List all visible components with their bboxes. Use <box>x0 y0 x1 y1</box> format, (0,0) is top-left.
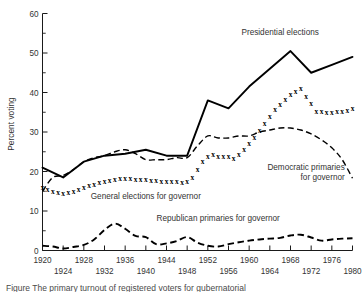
data-point-marker: x <box>320 107 324 116</box>
data-point-marker: x <box>113 175 117 184</box>
data-point-marker: x <box>196 165 200 174</box>
data-point-marker: x <box>325 108 329 117</box>
data-point-marker: x <box>170 177 174 186</box>
data-point-marker: x <box>46 185 50 194</box>
data-point-marker: x <box>159 177 163 186</box>
y-tick-label: 60 <box>29 10 39 19</box>
data-point-marker: x <box>185 177 189 186</box>
x-tick-label: 1972 <box>302 267 321 276</box>
data-point-marker: x <box>128 174 132 183</box>
x-tick-label: 1936 <box>116 256 135 265</box>
y-tick-label: 20 <box>29 168 39 177</box>
data-point-marker: x <box>175 177 179 186</box>
data-point-marker: x <box>97 178 101 187</box>
data-point-marker: x <box>149 176 153 185</box>
x-tick-label: 1948 <box>178 267 197 276</box>
data-point-marker: x <box>180 178 184 187</box>
data-point-marker: x <box>273 105 277 114</box>
y-tick-label: 40 <box>29 89 39 98</box>
x-tick-label: 1944 <box>157 256 176 265</box>
data-point-marker: x <box>227 152 231 161</box>
data-point-marker: x <box>304 92 308 101</box>
data-point-marker: x <box>258 126 262 135</box>
series-republican-primaries-for-governor <box>43 224 353 249</box>
data-point-marker: x <box>252 133 256 142</box>
y-axis-tick-labels: 0102030405060 <box>29 10 39 256</box>
label-presidential-elections: Presidential elections <box>241 28 318 37</box>
data-point-marker: x <box>263 119 267 128</box>
data-point-marker: x <box>103 177 107 186</box>
data-point-marker: x <box>221 152 225 161</box>
data-point-marker: x <box>247 139 251 148</box>
data-point-marker: x <box>77 185 81 194</box>
data-point-marker: x <box>92 180 96 189</box>
data-point-marker: x <box>289 90 293 99</box>
data-point-marker: x <box>232 154 236 163</box>
data-point-marker: x <box>82 183 86 192</box>
data-point-marker: x <box>268 112 272 121</box>
data-point-marker: x <box>201 157 205 166</box>
y-tick-label: 50 <box>29 49 39 58</box>
label-republican-primaries: Republican primaries for governor <box>157 214 281 223</box>
data-point-marker: x <box>154 176 158 185</box>
figure-caption-group: Figure The primary turnout of registered… <box>6 283 246 292</box>
series-annotations: Presidential electionsDemocratic primari… <box>91 28 345 223</box>
x-tick-label: 1968 <box>281 256 300 265</box>
line-chart: Percent voting 0102030405060 19201928193… <box>0 0 363 292</box>
y-tick-label: 30 <box>29 128 39 137</box>
data-point-marker: x <box>56 188 60 197</box>
x-tick-label: 1960 <box>240 256 259 265</box>
series-presidential-elections <box>43 51 353 177</box>
x-tick-label: 1952 <box>199 256 218 265</box>
data-point-marker: x <box>72 187 76 196</box>
data-point-marker: x <box>108 176 112 185</box>
data-point-marker: x <box>118 174 122 183</box>
data-point-marker: x <box>340 107 344 116</box>
y-tick-label: 10 <box>29 207 39 216</box>
x-tick-label: 1920 <box>33 256 52 265</box>
y-axis-title-group: Percent voting <box>6 97 16 151</box>
series-line <box>43 51 353 177</box>
data-point-marker: x <box>139 175 143 184</box>
data-point-marker: x <box>242 145 246 154</box>
x-tick-label: 1976 <box>323 256 342 265</box>
series-line <box>43 224 353 249</box>
data-point-marker: x <box>190 173 194 182</box>
data-point-marker: x <box>278 100 282 109</box>
y-tick-label: 0 <box>34 247 39 256</box>
label-general-elections: General elections for governor <box>91 192 201 201</box>
data-point-marker: x <box>314 107 318 116</box>
data-point-marker: x <box>144 175 148 184</box>
y-axis-title: Percent voting <box>6 97 16 151</box>
data-point-marker: x <box>345 106 349 115</box>
data-point-marker: x <box>351 104 355 113</box>
data-point-marker: x <box>61 189 65 198</box>
data-point-marker: x <box>294 87 298 96</box>
data-point-marker: x <box>211 150 215 159</box>
data-point-marker: x <box>237 150 241 159</box>
data-point-marker: x <box>299 84 303 93</box>
data-point-marker: x <box>283 95 287 104</box>
data-point-marker: x <box>309 99 313 108</box>
data-point-marker: x <box>123 174 127 183</box>
x-tick-label: 1932 <box>95 267 114 276</box>
data-point-marker: x <box>216 152 220 161</box>
label-democratic-primaries-line2: for governor <box>301 173 345 182</box>
x-tick-label: 1956 <box>219 267 238 276</box>
x-tick-label: 1928 <box>75 256 94 265</box>
data-point-marker: x <box>51 187 55 196</box>
figure-caption: Figure The primary turnout of registered… <box>6 283 246 292</box>
data-point-marker: x <box>134 175 138 184</box>
data-point-marker: x <box>330 108 334 117</box>
x-tick-label: 1964 <box>261 267 280 276</box>
x-tick-label: 1940 <box>137 267 156 276</box>
data-point-marker: x <box>206 152 210 161</box>
data-point-marker: x <box>87 181 91 190</box>
data-point-marker: x <box>66 188 70 197</box>
data-point-marker: x <box>165 177 169 186</box>
x-tick-label: 1980 <box>343 267 362 276</box>
data-point-marker: x <box>335 107 339 116</box>
data-point-marker: x <box>41 183 45 192</box>
figure-container: Percent voting 0102030405060 19201928193… <box>0 0 363 292</box>
x-tick-label: 1924 <box>54 267 73 276</box>
